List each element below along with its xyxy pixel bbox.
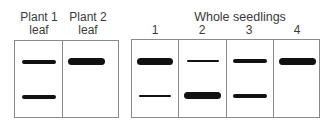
band-seedling1-lower [139, 95, 171, 97]
lane-label-seedling1: 1 [145, 24, 165, 37]
lane-divider [62, 41, 63, 117]
lane-label-plant2: Plant 2 leaf [66, 11, 110, 37]
lane-divider [273, 40, 274, 117]
band-plant1-lower [22, 95, 56, 99]
lane-label-seedling4: 4 [287, 24, 307, 37]
leaf-gel-panel [14, 40, 119, 118]
lane-label-line2: leaf [18, 24, 60, 37]
band-seedling2-lower [184, 92, 221, 99]
lane-label-plant1: Plant 1 leaf [18, 11, 60, 37]
band-seedling3-lower [233, 94, 267, 98]
lane-divider [178, 40, 179, 117]
lane-label-seedling2: 2 [192, 24, 212, 37]
lane-label-line2: leaf [66, 24, 110, 37]
whole-seedlings-title: Whole seedlings [190, 11, 290, 24]
band-seedling3-upper [233, 59, 267, 63]
band-seedling4-upper [279, 58, 316, 65]
band-plant2-upper [68, 58, 105, 65]
lane-divider [226, 40, 227, 117]
band-seedling2-upper [187, 60, 219, 62]
seedling-gel-panel [131, 39, 320, 118]
band-plant1-upper [22, 60, 56, 64]
band-seedling1-upper [137, 58, 173, 65]
lane-label-seedling3: 3 [239, 24, 259, 37]
